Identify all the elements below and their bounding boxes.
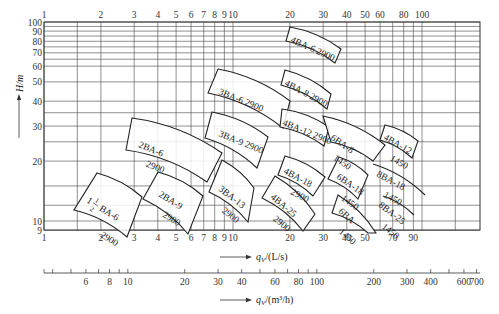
y-tick: 80 (33, 37, 43, 47)
y-tick: 10 (33, 217, 43, 227)
x-tick-bottom: 30 (318, 233, 328, 243)
x-axis-label-secondary: qV/(m³/h) (220, 294, 293, 307)
secondary-tick-label: 20 (180, 277, 190, 287)
y-tick: 70 (33, 48, 43, 58)
x-tick-bottom: 50 (360, 233, 370, 243)
x2-arrow-head-icon (246, 298, 252, 302)
y-tick: 40 (33, 97, 43, 107)
secondary-tick-label: 40 (237, 277, 247, 287)
x-tick-top: 40 (342, 10, 352, 20)
pump-selection-chart: 112BA-629002BA-929002BA-629003BA-1329003… (0, 0, 499, 314)
pump-region-4ba-12-2900: 4BA-12 2900 (280, 109, 333, 146)
x-axis-title-secondary: qV/(m³/h) (256, 294, 293, 307)
secondary-tick-label: 80 (294, 277, 304, 287)
x-tick-bottom: 90 (409, 233, 419, 243)
x-tick-top: 20 (285, 10, 295, 20)
x-tick-top: 3 (132, 10, 137, 20)
y-tick: 90 (33, 27, 43, 37)
x-tick-bottom: 20 (285, 233, 295, 243)
x-arrow-head-icon (246, 255, 252, 259)
x-tick-top: 10 (228, 10, 238, 20)
x-tick-top: 9 (222, 10, 227, 20)
x-tick-bottom: 6 (189, 233, 194, 243)
y-axis-title: H/m (14, 75, 25, 93)
secondary-tick-label: 8 (107, 277, 112, 287)
secondary-tick-label: 400 (424, 277, 439, 287)
x-tick-top: 80 (399, 10, 409, 20)
y-tick: 50 (33, 77, 43, 87)
y-tick: 20 (33, 157, 43, 167)
x-tick-top: 4 (155, 10, 160, 20)
x-axis-label-primary: qV/(L/s) (220, 251, 288, 264)
secondary-tick-label: 700 (469, 277, 484, 287)
y-axis-label: H/m (14, 75, 25, 138)
y-tick: 60 (33, 62, 43, 72)
secondary-axis: 68102030406080100200300400600700 (44, 269, 484, 287)
x-tick-top: 60 (375, 10, 385, 20)
x-tick-bottom: 70 (388, 233, 398, 243)
x-tick-bottom: 9 (222, 233, 227, 243)
x-tick-bottom: 2 (99, 233, 104, 243)
y-tick: 100 (28, 18, 43, 28)
y-tick: 9 (37, 226, 42, 236)
x-tick-bottom: 10 (228, 233, 238, 243)
pump-label: 8BA-181450 (368, 169, 411, 208)
pump-region-4ba-6-2900: 4BA-6 2900 (286, 27, 341, 63)
x-tick-bottom: 8 (212, 233, 217, 243)
secondary-tick-label: 30 (213, 277, 223, 287)
x-axis-unit: /(L/s) (265, 251, 287, 263)
x-axis-title-primary: qV/(L/s) (256, 251, 288, 264)
x-tick-top: 7 (201, 10, 206, 20)
secondary-tick-label: 200 (367, 277, 382, 287)
pump-regions: 112BA-629002BA-929002BA-629003BA-1329003… (73, 27, 425, 248)
x-tick-top: 6 (189, 10, 194, 20)
x-tick-top: 30 (318, 10, 328, 20)
x-tick-top: 2 (99, 10, 104, 20)
pump-region-2ba-9-2900: 2BA-92900 (143, 172, 203, 234)
x-tick-top: 8 (212, 10, 217, 20)
x-tick-top: 5 (174, 10, 179, 20)
secondary-tick-label: 6 (84, 277, 89, 287)
secondary-tick-label: 100 (310, 277, 325, 287)
x-tick-bottom: 7 (201, 233, 206, 243)
x-tick-bottom: 4 (155, 233, 160, 243)
x-tick-bottom: 5 (174, 233, 179, 243)
secondary-tick-label: 10 (123, 277, 133, 287)
y-tick: 30 (33, 122, 43, 132)
x-tick-bottom: 40 (342, 233, 352, 243)
y-arrow-head-icon (17, 94, 21, 100)
x-tick-top: 50 (360, 10, 370, 20)
x-tick-bottom: 1 (42, 233, 47, 243)
x-tick-top: 1 (42, 10, 47, 20)
x-tick-top: 100 (415, 10, 430, 20)
secondary-tick-label: 300 (400, 277, 415, 287)
pump-region-outline (74, 173, 142, 237)
secondary-tick-label: 60 (270, 277, 280, 287)
x2-axis-unit: /(m³/h) (265, 294, 293, 306)
x-tick-bottom: 3 (132, 233, 137, 243)
